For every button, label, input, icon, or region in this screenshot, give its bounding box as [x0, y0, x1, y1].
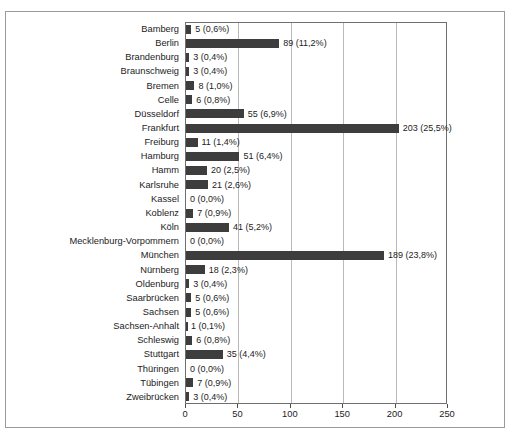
category-label: München [141, 248, 179, 262]
bar-rows: Bamberg5 (0,6%)Berlin89 (11,2%)Brandenbu… [185, 22, 447, 404]
bar-row: Düsseldorf55 (6,9%) [185, 107, 447, 121]
bar-value-label: 6 (0,8%) [196, 333, 230, 347]
bar-value-label: 6 (0,8%) [196, 93, 230, 107]
category-label: Sachsen [143, 305, 179, 319]
bar-row: Celle6 (0,8%) [185, 93, 447, 107]
x-tick-label: 0 [182, 409, 187, 419]
category-label: Nürnberg [140, 263, 179, 277]
category-label: Kassel [151, 192, 179, 206]
bar [186, 109, 244, 118]
category-label: Hamm [152, 163, 179, 177]
bar [186, 53, 189, 62]
bar-row: Kassel0 (0,0%) [185, 192, 447, 206]
category-label: Saarbrücken [126, 291, 179, 305]
bar [186, 124, 399, 133]
bar [186, 308, 191, 317]
category-label: Schleswig [137, 333, 179, 347]
bar-row: Hamm20 (2,5%) [185, 163, 447, 177]
bar-value-label: 203 (25,5%) [403, 121, 452, 135]
x-tick-mark [342, 404, 343, 408]
x-tick-mark [237, 404, 238, 408]
x-tick-mark [290, 404, 291, 408]
bar [186, 350, 223, 359]
bar [186, 392, 189, 401]
category-label: Stuttgart [144, 347, 179, 361]
x-tick-label: 200 [387, 409, 403, 419]
bar [186, 39, 279, 48]
horizontal-bar-chart: Bamberg5 (0,6%)Berlin89 (11,2%)Brandenbu… [0, 0, 513, 437]
bar-row: Saarbrücken5 (0,6%) [185, 291, 447, 305]
bar-value-label: 3 (0,4%) [193, 277, 227, 291]
bar-row: Braunschweig3 (0,4%) [185, 64, 447, 78]
bar [186, 223, 229, 232]
bar [186, 81, 194, 90]
bar-value-label: 51 (6,4%) [243, 149, 282, 163]
bar [186, 265, 205, 274]
bar-value-label: 5 (0,6%) [195, 305, 229, 319]
bar [186, 322, 188, 331]
category-label: Oldenburg [136, 277, 179, 291]
bar-row: Sachsen5 (0,6%) [185, 305, 447, 319]
category-label: Freiburg [144, 135, 179, 149]
bar-value-label: 5 (0,6%) [195, 291, 229, 305]
category-label: Bremen [146, 79, 179, 93]
bar-value-label: 3 (0,4%) [193, 64, 227, 78]
bar [186, 209, 193, 218]
bar-value-label: 11 (1,4%) [202, 135, 240, 149]
category-label: Mecklenburg-Vorpommern [69, 234, 179, 248]
category-label: Düsseldorf [135, 107, 179, 121]
x-tick-label: 250 [439, 409, 455, 419]
bar-value-label: 0 (0,0%) [190, 192, 224, 206]
x-tick-label: 50 [232, 409, 242, 419]
bar [186, 180, 208, 189]
category-label: Berlin [155, 36, 179, 50]
bar [186, 166, 207, 175]
bar-value-label: 189 (23,8%) [388, 248, 437, 262]
bar-value-label: 3 (0,4%) [193, 390, 227, 404]
category-label: Tübingen [140, 376, 179, 390]
category-label: Thüringen [137, 362, 179, 376]
bar-row: Koblenz7 (0,9%) [185, 206, 447, 220]
category-label: Hamburg [141, 149, 179, 163]
bar [186, 336, 192, 345]
bar-value-label: 18 (2,3%) [209, 263, 248, 277]
x-tick-mark [185, 404, 186, 408]
bar-row: Oldenburg3 (0,4%) [185, 277, 447, 291]
bar [186, 293, 191, 302]
bar-value-label: 41 (5,2%) [233, 220, 272, 234]
category-label: Koblenz [145, 206, 179, 220]
bar [186, 152, 239, 161]
bar-value-label: 20 (2,5%) [211, 163, 250, 177]
bar-row: Stuttgart35 (4,4%) [185, 347, 447, 361]
bar-value-label: 35 (4,4%) [227, 347, 266, 361]
bar-row: Freiburg11 (1,4%) [185, 135, 447, 149]
bar-row: München189 (23,8%) [185, 248, 447, 262]
category-label: Frankfurt [142, 121, 179, 135]
bar [186, 95, 192, 104]
bar-row: Brandenburg3 (0,4%) [185, 50, 447, 64]
category-label: Braunschweig [121, 64, 179, 78]
bar-value-label: 7 (0,9%) [197, 376, 231, 390]
bar-row: Tübingen7 (0,9%) [185, 376, 447, 390]
category-label: Brandenburg [125, 50, 179, 64]
x-tick-mark [395, 404, 396, 408]
x-tick-mark [447, 404, 448, 408]
bar-value-label: 21 (2,6%) [212, 178, 251, 192]
category-label: Karlsruhe [139, 178, 179, 192]
bar-value-label: 89 (11,2%) [283, 36, 326, 50]
category-label: Sachsen-Anhalt [113, 319, 179, 333]
bar-row: Hamburg51 (6,4%) [185, 149, 447, 163]
bar-row: Bamberg5 (0,6%) [185, 22, 447, 36]
bar-value-label: 7 (0,9%) [197, 206, 231, 220]
bar-row: Thüringen0 (0,0%) [185, 362, 447, 376]
bar [186, 251, 384, 260]
bar [186, 378, 193, 387]
bar-row: Mecklenburg-Vorpommern0 (0,0%) [185, 234, 447, 248]
bar-value-label: 55 (6,9%) [248, 107, 287, 121]
bar-row: Sachsen-Anhalt1 (0,1%) [185, 319, 447, 333]
category-label: Bamberg [141, 22, 179, 36]
bar-row: Schleswig6 (0,8%) [185, 333, 447, 347]
bar-row: Karlsruhe21 (2,6%) [185, 178, 447, 192]
bar-value-label: 3 (0,4%) [193, 50, 227, 64]
bar-value-label: 0 (0,0%) [190, 362, 224, 376]
